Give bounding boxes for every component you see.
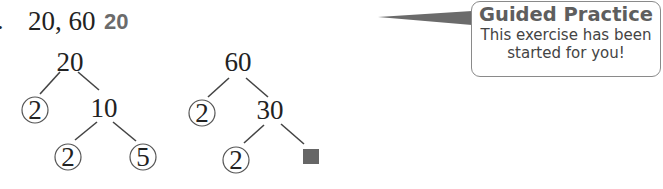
missing-factor-box [303, 149, 319, 164]
tree-root: 60 [225, 47, 252, 77]
edge [244, 125, 264, 143]
tree-leaf-prime: 5 [136, 142, 150, 172]
edge [281, 124, 304, 144]
callout-pointer [378, 11, 472, 25]
tree-leaf-prime: 2 [229, 145, 243, 175]
edge [113, 122, 136, 141]
tree-leaf-prime: 2 [195, 98, 209, 128]
factor-tree-1: 20 2 10 2 5 [22, 47, 156, 172]
tree-leaf-prime: 2 [28, 95, 42, 125]
tree-leaf-prime: 2 [61, 142, 75, 172]
tree-branch: 10 [91, 93, 118, 123]
guided-practice-callout: Guided Practice This exercise has been s… [471, 1, 661, 77]
callout-line-2: started for you! [472, 44, 660, 62]
tree-branch: 30 [257, 95, 284, 125]
callout-title: Guided Practice [472, 4, 660, 26]
factor-tree-2: 60 2 30 2 [189, 47, 319, 175]
edge [208, 78, 229, 97]
tree-root: 20 [57, 47, 84, 77]
edge [75, 122, 97, 140]
callout-line-1: This exercise has been [472, 26, 660, 44]
